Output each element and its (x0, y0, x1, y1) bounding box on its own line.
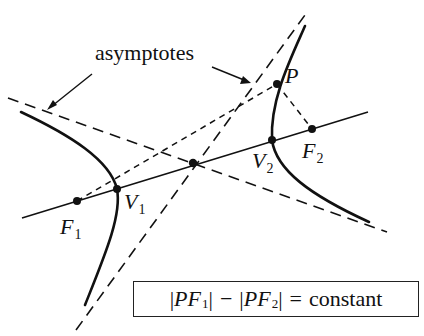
point-f2 (308, 125, 316, 133)
eq-f-2: F (257, 286, 270, 312)
vertex-1-label: V1 (124, 191, 145, 213)
abs-bar-close-1: | (209, 286, 213, 312)
point-f1 (73, 197, 81, 205)
eq-p-1: P (174, 286, 187, 312)
arrow-to-asymptote-1-shaft (52, 74, 92, 106)
asymptote-line-1 (8, 98, 387, 232)
eq-minus: − (220, 286, 232, 312)
focus-2-label: F2 (302, 140, 323, 162)
eq-equals: = (290, 286, 302, 312)
focus-2-label-sub: 2 (316, 151, 323, 166)
point-v1 (113, 185, 121, 193)
vertex-2-label: V2 (252, 150, 273, 172)
point-v2 (268, 136, 276, 144)
eq-p-2: P (244, 286, 257, 312)
arrow-to-asymptote-2-head (240, 76, 251, 84)
focus-1-label-main: F (60, 214, 73, 239)
vertex-2-label-sub: 2 (266, 161, 273, 176)
vertex-2-label-main: V (252, 148, 265, 173)
eq-sub-1: 1 (202, 296, 209, 312)
point-center (189, 159, 197, 167)
vertex-1-label-main: V (124, 189, 137, 214)
focal-radius-pf1 (77, 84, 277, 201)
vertex-1-label-sub: 1 (138, 202, 145, 217)
focus-1-label-sub: 1 (74, 227, 81, 242)
point-p-label: P (285, 65, 298, 87)
asymptotes-label: asymptotes (95, 42, 194, 64)
arrow-to-asymptote-2-shaft (212, 67, 244, 80)
hyperbola-left-branch (21, 112, 118, 305)
focus-2-label-main: F (302, 138, 315, 163)
abs-bar-close-2: | (278, 286, 282, 312)
focus-1-label: F1 (60, 216, 81, 238)
arrow-to-asymptote-1-head (47, 100, 57, 110)
definition-equation-box: |PF1| − |PF2| = constant (133, 281, 419, 317)
eq-rhs: constant (309, 286, 382, 312)
focal-radius-pf2 (277, 84, 312, 129)
point-p (273, 80, 281, 88)
hyperbola-right-branch (272, 26, 369, 222)
eq-f-1: F (188, 286, 201, 312)
eq-sub-2: 2 (272, 296, 279, 312)
